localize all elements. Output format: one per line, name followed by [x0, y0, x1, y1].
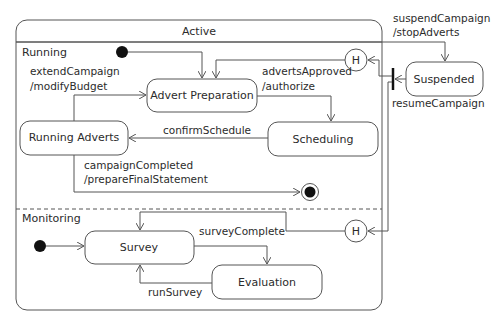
svg-text:Survey: Survey [120, 241, 159, 254]
svg-text:Suspended: Suspended [413, 73, 474, 86]
label-authorize: /authorize [262, 80, 315, 92]
label-stop-adverts: /stopAdverts [393, 26, 459, 38]
svg-text:Evaluation: Evaluation [238, 276, 296, 289]
state-advert-preparation: Advert Preparation [147, 79, 257, 112]
svg-text:H: H [352, 225, 360, 238]
label-suspend-campaign: suspendCampaign [393, 12, 490, 24]
label-campaign-completed: campaignCompleted [84, 159, 193, 171]
initial-running-icon [116, 46, 128, 58]
state-evaluation: Evaluation [212, 265, 322, 299]
label-run-survey: runSurvey [148, 286, 202, 298]
region-running-label: Running [22, 46, 67, 59]
label-modify-budget: /modifyBudget [30, 80, 107, 92]
svg-text:H: H [352, 54, 360, 67]
label-survey-complete: surveyComplete [199, 225, 285, 237]
label-prepare-final-statement: /prepareFinalStatement [84, 173, 208, 185]
active-state [16, 20, 382, 310]
history-monitoring: H [345, 220, 367, 242]
region-monitoring-label: Monitoring [22, 212, 81, 225]
svg-text:Advert Preparation: Advert Preparation [150, 89, 253, 102]
active-title: Active [182, 25, 216, 38]
svg-text:Scheduling: Scheduling [293, 133, 354, 146]
state-running-adverts: Running Adverts [20, 121, 128, 155]
state-suspended: Suspended [406, 62, 483, 96]
svg-text:Running Adverts: Running Adverts [29, 131, 120, 144]
label-confirm-schedule: confirmSchedule [163, 124, 251, 136]
label-extend-campaign: extendCampaign [30, 65, 120, 77]
label-resume-campaign: resumeCampaign [392, 97, 485, 109]
initial-monitoring-icon [34, 240, 46, 252]
state-survey: Survey [85, 231, 194, 264]
label-adverts-approved: advertsApproved [262, 65, 352, 77]
state-scheduling: Scheduling [268, 122, 378, 156]
final-state-icon [302, 184, 319, 201]
state-diagram: Active Running Monitoring Advert Prepara… [0, 0, 500, 321]
